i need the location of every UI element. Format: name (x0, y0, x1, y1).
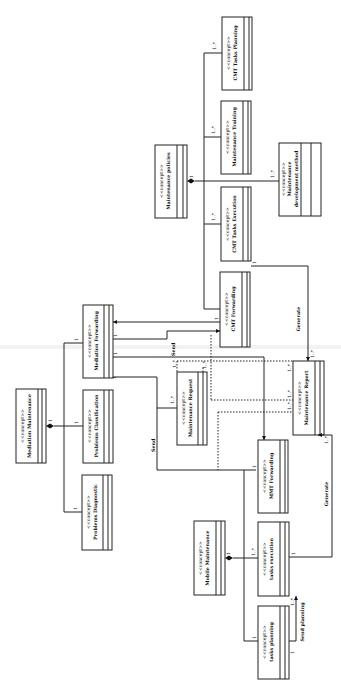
concept-maintenance-policies[interactable]: <<concept>> Maintenance policies (155, 145, 187, 218)
arrow-icon (262, 436, 266, 440)
svg-text:1..*: 1..* (251, 547, 256, 556)
svg-text:Mediation Forwarding: Mediation Forwarding (93, 311, 100, 371)
svg-text:<<concept>>: <<concept>> (225, 207, 230, 241)
svg-text:1..*: 1..* (290, 597, 295, 606)
svg-text:Generate: Generate (295, 307, 301, 332)
composition-mediation-maintenance: 1 1 1 1 (46, 338, 83, 512)
association-mediation-cmt-forwarding: 1 1 Send (113, 317, 220, 356)
svg-text:Maintenance: Maintenance (286, 161, 292, 196)
svg-text:tasks planning: tasks planning (268, 622, 275, 662)
association-generate-report-tasks: 1 1..* Generate (289, 433, 332, 557)
svg-text:MMT Forwarding: MMT Forwarding (268, 452, 275, 499)
concept-mobile-maintenance[interactable]: <<concept>> Mobile Maintenance (194, 521, 225, 595)
svg-text:1: 1 (252, 465, 257, 468)
svg-text:Maintenance Request: Maintenance Request (187, 378, 193, 437)
svg-text:CMT Forwarding: CMT Forwarding (230, 286, 237, 332)
arrow-icon (216, 329, 220, 333)
svg-text:1: 1 (113, 334, 118, 337)
svg-text:1: 1 (291, 552, 296, 555)
concept-mediation-forwarding[interactable]: <<concept>> Mediation Forwarding (83, 305, 113, 378)
svg-text:1: 1 (113, 352, 118, 355)
association-generate-report-cmt: 1 1..* Generate (251, 261, 315, 361)
svg-text:Maintenance policies: Maintenance policies (165, 152, 171, 210)
svg-text:1: 1 (48, 419, 53, 422)
concept-maintenance-request[interactable]: <<concept>> Maintenance Request (177, 372, 207, 445)
svg-text:1: 1 (73, 507, 78, 510)
association-send-planning: 1 1..* Send planning (289, 596, 306, 654)
concept-maintenance-development-method[interactable]: <<concept>> Maintenance development meth… (279, 143, 321, 216)
concept-cmt-tasks-planning[interactable]: <<concept>> CMT Tasks Planning (222, 17, 252, 90)
concept-mmt-forwarding[interactable]: <<concept>> MMT Forwarding (258, 440, 288, 513)
svg-text:<<concept>>: <<concept>> (86, 495, 91, 529)
svg-text:1: 1 (74, 338, 79, 341)
stereotype-label: <<concept>> (20, 409, 25, 443)
svg-text:CMT Tasks Planning: CMT Tasks Planning (232, 25, 239, 81)
concept-problems-classification[interactable]: <<concept>> Problems Classification (83, 390, 113, 463)
svg-text:1: 1 (112, 376, 117, 379)
svg-text:<<concept>>: <<concept>> (87, 409, 92, 443)
svg-text:<<concept>>: <<concept>> (297, 381, 302, 415)
diamond-icon (46, 424, 54, 429)
composition-mobile-maintenance: 1 1..* 1 (225, 470, 258, 641)
svg-text:Send: Send (150, 438, 156, 452)
svg-text:<<concept>>: <<concept>> (198, 541, 203, 575)
concept-name: Mediation Maintenance (26, 394, 32, 458)
svg-text:1..*: 1..* (287, 389, 292, 398)
diamond-icon (225, 556, 233, 561)
arrow-icon (113, 320, 117, 324)
svg-text:<<concept>>: <<concept>> (226, 36, 231, 70)
svg-text:Mobile Maintenance: Mobile Maintenance (204, 530, 210, 585)
svg-text:1..*: 1..* (270, 169, 275, 178)
svg-text:Problems Classification: Problems Classification (93, 394, 99, 458)
svg-text:<<concept>>: <<concept>> (181, 391, 186, 425)
concept-problems-diagnostic[interactable]: <<concept>> Problems Diagnostic (82, 475, 112, 550)
svg-text:1..*: 1..* (172, 359, 177, 368)
svg-text:1..*: 1..* (324, 435, 329, 444)
concept-tasks-planning[interactable]: <<concept>> tasks planning (258, 606, 289, 679)
svg-text:1: 1 (226, 552, 231, 555)
svg-text:1..*: 1..* (287, 401, 292, 410)
concept-maintenance-report[interactable]: <<concept>> Maintenance Report (293, 361, 324, 435)
svg-text:1: 1 (252, 261, 257, 264)
svg-text:tasks execution: tasks execution (268, 538, 274, 580)
svg-text:1: 1 (189, 175, 194, 178)
svg-text:1..*: 1..* (211, 212, 216, 221)
svg-text:1: 1 (252, 636, 257, 639)
concept-mediation-maintenance[interactable]: <<concept>> Mediation Maintenance (16, 389, 46, 463)
svg-text:Problems Diagnostic: Problems Diagnostic (92, 484, 99, 540)
svg-text:1: 1 (214, 317, 219, 320)
svg-text:Send planning: Send planning (299, 602, 306, 642)
svg-text:1..*: 1..* (211, 125, 216, 134)
svg-text:<<concept>>: <<concept>> (225, 120, 230, 154)
svg-text:<<concept>>: <<concept>> (262, 542, 267, 576)
svg-text:<<concept>>: <<concept>> (262, 459, 267, 493)
concept-cmt-forwarding[interactable]: <<concept>> CMT Forwarding (220, 272, 250, 347)
svg-text:<<concept>>: <<concept>> (224, 292, 229, 326)
svg-text:1..*: 1..* (212, 41, 217, 50)
svg-text:1: 1 (74, 421, 79, 424)
svg-text:1..*: 1..* (202, 360, 207, 369)
svg-text:CMT Tasks Execution: CMT Tasks Execution (231, 195, 237, 253)
concept-tasks-execution[interactable]: <<concept>> tasks execution (258, 522, 289, 596)
svg-text:1..*: 1..* (170, 395, 175, 404)
svg-text:<<concept>>: <<concept>> (262, 625, 267, 659)
concept-maintenance-training[interactable]: <<concept>> Maintenance Training (221, 101, 251, 174)
svg-text:Send: Send (170, 342, 176, 356)
svg-text:Maintenance Report: Maintenance Report (303, 370, 309, 426)
concept-cmt-tasks-execution[interactable]: <<concept>> CMT Tasks Execution (221, 187, 251, 261)
svg-text:1..*: 1..* (310, 349, 315, 358)
svg-text:<<concept>>: <<concept>> (87, 324, 92, 358)
svg-text:1: 1 (290, 651, 295, 654)
diamond-icon (187, 179, 195, 184)
svg-text:Generate: Generate (323, 482, 329, 507)
svg-text:1..*: 1..* (287, 363, 292, 372)
svg-text:development method: development method (293, 150, 299, 207)
uml-concept-diagram: <<concept>> Mediation Maintenance <<conc… (0, 0, 341, 688)
svg-text:<<concept>>: <<concept>> (159, 164, 164, 198)
svg-text:Maintenance Training: Maintenance Training (231, 107, 238, 167)
